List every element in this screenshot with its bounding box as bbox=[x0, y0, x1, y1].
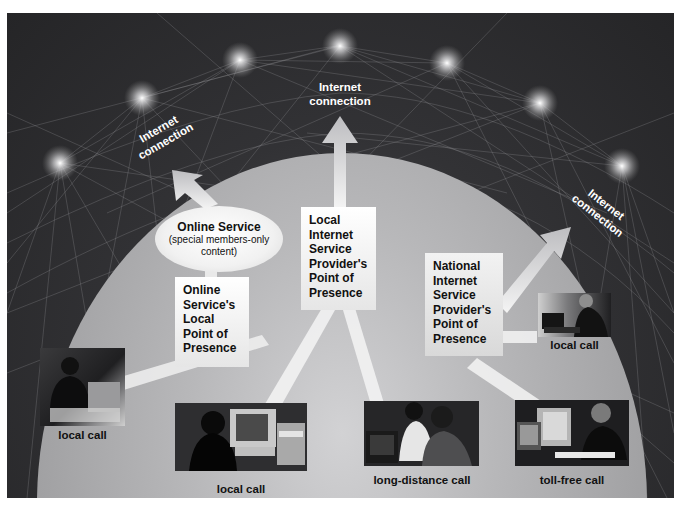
internet-diagram: Internet connection Internet connection … bbox=[7, 13, 674, 498]
online-service-subtitle-1: (special members-only bbox=[155, 234, 283, 246]
photo-woman-at-desk bbox=[40, 348, 125, 426]
photo-woman-at-computer bbox=[175, 403, 307, 471]
internet-connection-label-center: Internet connection bbox=[300, 80, 380, 108]
online-service-subtitle-2: content) bbox=[155, 246, 283, 258]
caption-local-call-center: local call bbox=[175, 483, 307, 495]
local-isp-pop-box: Local Internet Service Provider's Point … bbox=[301, 207, 376, 310]
photo-man-toll-free bbox=[515, 400, 629, 466]
caption-long-distance-call: long-distance call bbox=[357, 474, 487, 486]
arrow-up-left bbox=[172, 170, 218, 209]
online-service-title: Online Service bbox=[155, 220, 283, 234]
caption-toll-free-call: toll-free call bbox=[515, 474, 629, 486]
online-service-pop-box: Online Service's Local Point of Presence bbox=[175, 277, 249, 367]
arrow-up-center bbox=[322, 116, 358, 208]
caption-local-call-left: local call bbox=[40, 429, 125, 441]
national-isp-pop-box: National Internet Service Provider's Poi… bbox=[425, 253, 503, 356]
online-service-node: Online Service (special members-only con… bbox=[155, 206, 283, 272]
photo-two-men-long-distance bbox=[364, 401, 479, 466]
photo-man-with-laptop bbox=[538, 293, 611, 337]
caption-local-call-right: local call bbox=[538, 339, 611, 351]
